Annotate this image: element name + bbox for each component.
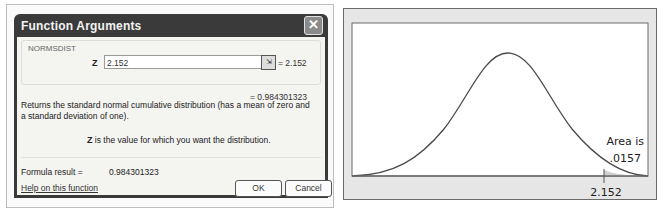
function-description: Returns the standard normal cumulative d… [21, 100, 311, 122]
area-annotation-line2: .0157 [610, 152, 642, 165]
argument-help: Z is the value for which you want the di… [87, 135, 271, 145]
divider [21, 157, 321, 158]
dialog-title: Function Arguments [21, 19, 141, 33]
ok-button[interactable]: OK [235, 180, 282, 197]
z-argument-input[interactable]: 2.152 [104, 55, 262, 69]
collapse-dialog-icon[interactable]: ⇲ [261, 55, 276, 70]
cancel-button[interactable]: Cancel [285, 180, 332, 197]
x-marker-label: 2.152 [590, 186, 622, 199]
help-on-function-link[interactable]: Help on this function [21, 183, 98, 193]
formula-result-label: Formula result = [21, 167, 83, 177]
z-argument-label: Z [92, 58, 98, 68]
argument-help-text: is the value for which you want the dist… [93, 135, 271, 145]
close-icon[interactable]: ✕ [304, 16, 323, 35]
formula-result-value: 0.984301323 [109, 167, 159, 177]
function-arguments-dialog: Function Arguments ✕ NORMSDIST Z 2.152 ⇲… [14, 14, 328, 198]
dialog-body: NORMSDIST Z 2.152 ⇲ = 2.152 = 0.98430132… [17, 37, 325, 195]
argument-group: NORMSDIST Z 2.152 ⇲ = 2.152 [21, 40, 321, 85]
normal-curve-chart: Area is .0157 2.152 [344, 9, 658, 201]
z-argument-evaluated: = 2.152 [278, 58, 307, 68]
function-name: NORMSDIST [28, 44, 76, 53]
title-bar[interactable]: Function Arguments ✕ [17, 14, 325, 37]
normal-curve-figure: Area is .0157 2.152 [343, 8, 657, 200]
plot-area [352, 23, 648, 176]
area-annotation-line1: Area is [606, 135, 644, 148]
